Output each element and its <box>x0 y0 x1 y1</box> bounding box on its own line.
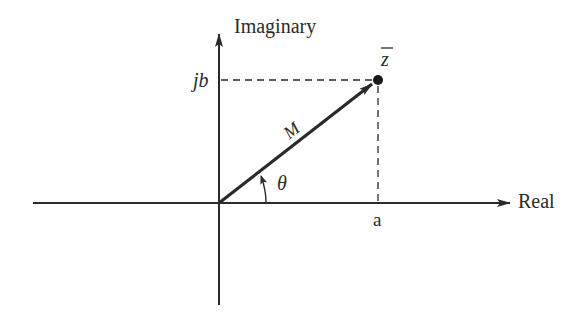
point-z <box>373 75 383 85</box>
angle-label: θ <box>277 173 287 193</box>
magnitude-vector <box>219 84 372 203</box>
real-axis-label: Real <box>518 191 555 211</box>
complex-plane-diagram <box>0 0 585 323</box>
point-label: z <box>381 49 389 69</box>
imaginary-axis-label: Imaginary <box>234 16 316 36</box>
imaginary-value-label: jb <box>193 70 209 90</box>
angle-arc-arrow <box>261 176 266 202</box>
real-value-label: a <box>373 210 381 229</box>
